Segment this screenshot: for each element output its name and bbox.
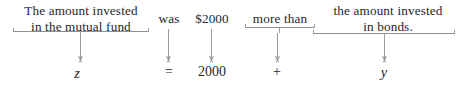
phrase-mutual-fund: The amount invested in the mutual fund	[13, 3, 149, 34]
arrow-head	[380, 56, 389, 62]
symbol-2000: 2000	[189, 64, 235, 80]
brace-left-tick	[245, 24, 246, 28]
brace-bar	[13, 31, 149, 32]
word-to-equation-diagram: The amount invested in the mutual fund z…	[0, 0, 462, 85]
arrow-head	[76, 56, 85, 62]
brace-bar	[245, 27, 315, 28]
symbol-y: y	[368, 64, 400, 80]
symbol-z: z	[61, 65, 93, 81]
brace-left-tick	[313, 30, 314, 34]
symbol-plus: +	[261, 64, 293, 80]
symbol-equals: =	[153, 64, 185, 80]
phrase-more-than: more than	[245, 11, 315, 26]
phrase-bonds: the amount invested in bonds.	[320, 3, 456, 34]
arrow-head	[207, 56, 216, 62]
arrow-head	[273, 56, 282, 62]
brace-right-tick	[454, 30, 455, 34]
phrase-dollar-amount: $2000	[189, 11, 235, 26]
underbrace-more-than	[245, 27, 315, 33]
arrow-head	[164, 56, 173, 62]
phrase-was: was	[153, 11, 185, 26]
brace-stem	[279, 27, 280, 33]
underbrace-mutual-fund	[13, 31, 149, 37]
brace-left-tick	[13, 28, 14, 32]
brace-right-tick	[314, 24, 315, 28]
brace-right-tick	[148, 28, 149, 32]
